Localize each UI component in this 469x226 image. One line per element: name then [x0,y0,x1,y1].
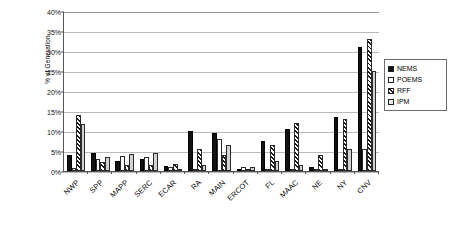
bar [261,141,266,171]
legend-label: IPM [397,98,409,105]
x-label-cell: SERC [136,174,160,226]
legend-label: NEMS [397,65,417,72]
legend-swatch [388,66,394,72]
bar-group [161,12,185,171]
legend-label: POEMS [397,76,422,83]
x-label-cell: MAPP [112,174,136,226]
x-axis-labels: NWPSPPMAPPSERCECARRAMAINERCOTFLMAACNENYC… [63,174,379,226]
bar [299,165,304,171]
bar [347,149,352,171]
bar-group [234,12,258,171]
bar [178,169,183,171]
x-axis-tick-label: MAPP [108,178,130,199]
legend-swatch [388,88,394,94]
legend-item: POEMS [388,74,443,85]
bar-group [355,12,379,171]
legend-swatch [388,77,394,83]
x-label-cell: MAAC [282,174,306,226]
x-axis-tick-label: NE [311,178,325,192]
x-label-cell: SPP [87,174,111,226]
chart-legend: NEMSPOEMSRFFIPM [384,59,447,111]
bar [334,117,339,171]
plot-area: 0%5%10%15%20%25%30%35%40% [63,12,379,172]
x-label-cell: NE [306,174,330,226]
x-label-cell: CNV [355,174,379,226]
bar [294,123,299,171]
bar [188,131,193,171]
x-axis-tick-label: NY [335,178,349,192]
legend-label: RFF [397,87,411,94]
bar [129,154,134,171]
bar [153,153,158,171]
bar [275,161,280,171]
y-tick-mark [61,172,64,173]
y-tick-label: 15% [47,109,61,116]
x-label-cell: NY [330,174,354,226]
y-tick-label: 40% [47,9,61,16]
bar [226,145,231,171]
bar-group [185,12,209,171]
y-tick-label: 35% [47,29,61,36]
x-label-cell: ERCOT [233,174,257,226]
y-tick-label: 5% [51,149,61,156]
legend-item: NEMS [388,63,443,74]
legend-item: RFF [388,85,443,96]
x-label-cell: RA [185,174,209,226]
legend-item: IPM [388,96,443,107]
x-axis-tick-label: ECAR [157,178,179,199]
bar [105,157,110,171]
legend-swatch [388,99,394,105]
y-tick-label: 10% [47,129,61,136]
bar-group [331,12,355,171]
bar-chart: % of Generation 0%5%10%15%20%25%30%35%40… [0,0,469,226]
bar [372,71,377,171]
y-tick-label: 30% [47,49,61,56]
x-axis-tick-label: MAIN [207,178,227,198]
x-label-cell: ECAR [160,174,184,226]
bar [285,129,290,171]
y-tick-label: 20% [47,89,61,96]
y-tick-label: 25% [47,69,61,76]
bar-group [88,12,112,171]
x-axis-tick-label: NWP [62,178,81,197]
bar [250,167,255,171]
y-tick-label: 0% [51,169,61,176]
x-label-cell: FL [258,174,282,226]
bar-group [64,12,88,171]
bar-groups [64,12,379,171]
x-axis-tick-label: RA [189,178,203,192]
bar [202,165,207,171]
x-axis-tick-label: FL [263,178,276,191]
x-axis-tick-label: CNV [355,178,373,196]
bar-group [282,12,306,171]
bar-group [258,12,282,171]
bar [81,124,86,171]
x-label-cell: NWP [63,174,87,226]
x-axis-tick-label: SERC [133,178,155,199]
bar-group [306,12,330,171]
x-axis-tick-label: SPP [88,178,105,195]
bar-group [209,12,233,171]
bar-group [112,12,136,171]
x-axis-tick-label: MAAC [278,178,300,200]
bar [323,169,328,171]
bar-group [137,12,161,171]
